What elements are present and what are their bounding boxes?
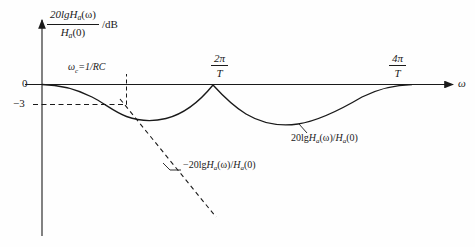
y-axis-label: 20lgHa(ω) Ha(0) /dB: [47, 8, 118, 40]
y-axis-label-fraction: 20lgHa(ω) Ha(0): [47, 8, 99, 40]
y-axis-unit-label: /dB: [99, 19, 118, 30]
y-axis-label-numerator: 20lgHa(ω): [47, 8, 99, 25]
asymptote-dashed-line: [120, 99, 216, 217]
x-tick-4pi-numerator: 4π: [389, 52, 406, 66]
x-axis-symbol-label: ω: [458, 78, 466, 89]
y-axis-label-denominator: Ha(0): [58, 25, 89, 41]
x-tick-label-2pi-over-T: 2π T: [211, 52, 228, 80]
x-tick-4pi-denominator: T: [391, 66, 403, 79]
y-tick-label-0: 0: [22, 78, 28, 89]
cutoff-frequency-label: ωc=1/RC: [68, 62, 105, 75]
magnitude-response-curve: [42, 85, 412, 125]
x-tick-2pi-numerator: 2π: [211, 52, 228, 66]
x-tick-label-4pi-over-T: 4π T: [389, 52, 406, 80]
asymptote-curve-label: −20lgHa(ω)/Ha(0): [183, 160, 256, 172]
y-tick-label-minus3: −3: [13, 98, 25, 109]
x-tick-2pi-denominator: T: [213, 66, 225, 79]
figure-bode-magnitude-plot: 20lgHa(ω) Ha(0) /dB 0 −3 2π T 4π T ω ωc=…: [0, 0, 475, 247]
magnitude-curve-label: 20lgHa(ω)/Ha(0): [291, 133, 358, 145]
asymptote-leader-line: [163, 163, 181, 170]
